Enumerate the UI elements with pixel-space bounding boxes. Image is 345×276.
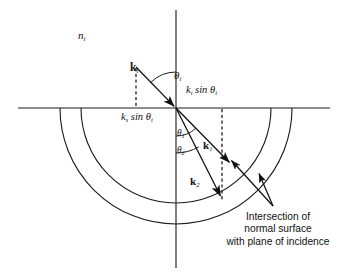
label-refracted-wavevector-2: k2 [190, 176, 199, 189]
label-ki-sin-angle-subscript: i [215, 89, 217, 96]
caption-line-1: Intersection of [213, 211, 343, 223]
label-incident-wavevector: ki [130, 62, 138, 75]
label-k2-subscript: 2 [196, 181, 199, 188]
label-medium-index: ni [78, 30, 85, 43]
figure-root: ni ki θi ki sin θi ks sin θi θ1 θ2 k1 k2… [0, 0, 345, 276]
caption-block: Intersection of normal surface with plan… [213, 211, 343, 248]
label-tangential-component-transmitted: ks sin θi [121, 112, 153, 123]
caption-line-2: normal surface [213, 223, 343, 235]
label-refracted-wavevector-1: k1 [203, 140, 212, 153]
caption-line-3: with plane of incidence [213, 236, 343, 248]
label-tangential-component-incident: ki sin θi [186, 85, 217, 96]
pointer-to-inner-arc [232, 161, 274, 207]
caption-pointer-arrows [232, 161, 274, 207]
label-refraction-angle-2: θ2 [177, 146, 185, 157]
theta-i-angle-arc [151, 72, 176, 83]
label-theta-1-subscript: 1 [182, 133, 185, 139]
label-theta-2-subscript: 2 [182, 150, 185, 156]
label-n-subscript: i [84, 35, 86, 42]
label-incidence-angle: θi [174, 70, 181, 83]
label-ki-sin-trig: sin [192, 84, 210, 95]
label-ks-sin-trig: sin [128, 111, 146, 122]
label-theta-i-subscript: i [179, 75, 181, 82]
label-ks-sin-angle-subscript: i [151, 116, 153, 123]
label-k1-subscript: 1 [209, 145, 212, 152]
label-ki-subscript: i [136, 67, 138, 74]
label-refraction-angle-1: θ1 [177, 129, 185, 140]
pointer-to-outer-arc [259, 174, 273, 207]
